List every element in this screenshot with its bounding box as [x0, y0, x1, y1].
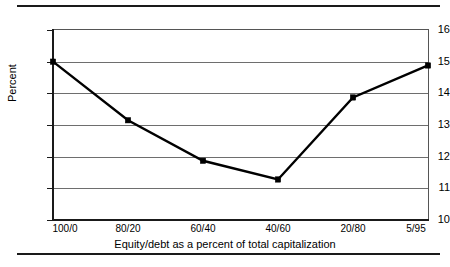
x-axis-spine	[52, 219, 429, 221]
x-axis-title: Equity/debt as a percent of total capita…	[0, 238, 450, 250]
top-divider-rule	[17, 5, 440, 7]
y-tick-label-11: 11	[406, 182, 450, 193]
gridline-y-13	[53, 125, 428, 126]
x-tick-label-5: 5/95	[406, 223, 425, 234]
y-tick-label-12: 12	[406, 151, 450, 162]
gridline-y-14	[53, 93, 428, 94]
x-tick-label-4: 20/80	[340, 223, 365, 234]
x-tick-label-1: 80/20	[115, 223, 140, 234]
y-tick-label-13: 13	[406, 119, 450, 130]
x-tick-label-3: 40/60	[265, 223, 290, 234]
y-tick-label-15: 15	[406, 56, 450, 67]
y-axis-title: Percent	[6, 64, 18, 102]
gridline-y-11	[53, 188, 428, 189]
gridline-y-12	[53, 157, 428, 158]
chart-area: 10111213141516 100/080/2060/4040/6020/80…	[0, 14, 450, 250]
gridline-y-15	[53, 62, 428, 63]
y-axis-spine	[52, 29, 54, 221]
x-tick-label-2: 60/40	[190, 223, 215, 234]
x-tick-label-0: 100/0	[52, 223, 77, 234]
bottom-divider-rule	[17, 253, 440, 255]
figure: 10111213141516 100/080/2060/4040/6020/80…	[0, 0, 450, 267]
y-tick-label-14: 14	[406, 87, 450, 98]
y-tick-label-16: 16	[406, 24, 450, 35]
